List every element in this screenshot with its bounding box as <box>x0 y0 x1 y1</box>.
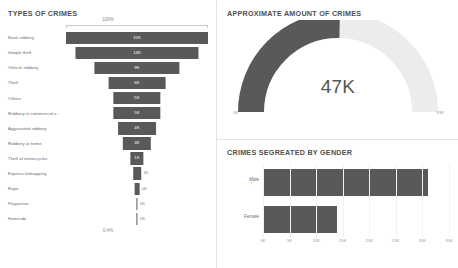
gender-gridline <box>369 164 370 238</box>
gender-gridline <box>290 164 291 238</box>
gender-axis-tick: 30K <box>419 238 426 243</box>
gender-row-label: Male <box>227 177 259 182</box>
gauge-value-text: 47K <box>231 76 445 98</box>
gender-axis-tick: 0K <box>260 238 265 243</box>
funnel-row: Simple theft13K <box>0 46 216 61</box>
gender-gridline <box>422 164 423 238</box>
funnel-row: Theft6K <box>0 76 216 91</box>
gender-axis-tick: 35K <box>445 238 452 243</box>
funnel-bar-track: 15K <box>66 32 208 44</box>
funnel-row-label: Robbery in commercial a... <box>8 111 60 116</box>
crimes-by-gender-panel: CRIMES SEGREATED BY GENDER MaleFemale 0K… <box>216 139 458 268</box>
funnel-axis-bracket <box>66 25 208 28</box>
funnel-bar-value: 0K <box>142 183 147 195</box>
approximate-amount-panel: APPROXIMATE AMOUNT OF CRIMES 47K 0K 93K <box>216 0 458 139</box>
gender-bar-track <box>263 164 449 201</box>
gender-row-label: Female <box>227 214 259 219</box>
funnel-bar-track: 1K <box>66 167 208 179</box>
gender-axis-tick: 10K <box>312 238 319 243</box>
gender-bar <box>263 169 428 196</box>
gender-axis-tick: 20K <box>366 238 373 243</box>
gender-gridline <box>263 164 264 238</box>
gender-axis-stray-mark: 7 <box>250 181 252 186</box>
gender-axis-tick: 15K <box>339 238 346 243</box>
gender-row: Female <box>227 201 451 238</box>
funnel-bar-value: 9K <box>134 62 139 74</box>
funnel-row: Aggravated robbery4K <box>0 122 216 137</box>
funnel-row-label: Aggravated robbery <box>8 126 47 131</box>
funnel-row: Robbery at home3K <box>0 137 216 152</box>
gauge-min-label: 0K <box>233 110 238 115</box>
funnel-row: Plagiarism0K <box>0 197 216 212</box>
funnel-bar-value: 4K <box>134 122 139 134</box>
gauge-arc-svg <box>231 20 445 120</box>
funnel-bar-track: 3K <box>66 137 208 149</box>
gender-chart-title: CRIMES SEGREATED BY GENDER <box>227 148 352 157</box>
funnel-bar-track: 9K <box>66 62 208 74</box>
funnel-row: Others5K <box>0 91 216 106</box>
funnel-bar-track: 4K <box>66 122 208 134</box>
funnel-row: Homicide0K <box>0 212 216 227</box>
funnel-row-label: Express kidnapping <box>8 171 46 176</box>
funnel-row: Vehicle robbery9K <box>0 61 216 76</box>
gender-gridline <box>316 164 317 238</box>
funnel-bar <box>133 167 141 179</box>
types-of-crimes-panel: TYPES OF CRIMES 100% Bank robbery15KSimp… <box>0 0 216 268</box>
funnel-row: Theft of motorcycles1K <box>0 152 216 167</box>
funnel-rows: Bank robbery15KSimple theft13KVehicle ro… <box>0 31 216 227</box>
funnel-bar-value: 1K <box>134 152 139 164</box>
funnel-row-label: Theft of motorcycles <box>8 156 48 161</box>
gender-axis-tick: 5K <box>287 238 292 243</box>
funnel-top-percent-label: 100% <box>0 17 216 22</box>
funnel-bar-track: 0K <box>66 198 208 210</box>
funnel-row-label: Rape <box>8 186 19 191</box>
funnel-bar <box>135 183 140 195</box>
funnel-bar-track: 5K <box>66 92 208 104</box>
gauge-chart-title: APPROXIMATE AMOUNT OF CRIMES <box>227 9 361 18</box>
gender-axis-tick: 25K <box>392 238 399 243</box>
funnel-bar-value: 13K <box>133 47 141 59</box>
funnel-bar-value: 3K <box>134 137 139 149</box>
funnel-row-label: Robbery at home <box>8 141 42 146</box>
gender-row: Male <box>227 164 451 201</box>
funnel-row: Rape0K <box>0 182 216 197</box>
gender-gridline <box>343 164 344 238</box>
funnel-bar-track: 1K <box>66 152 208 164</box>
funnel-bar-track: 6K <box>66 77 208 89</box>
funnel-bar-value: 0K <box>140 213 145 225</box>
funnel-row-label: Simple theft <box>8 50 31 55</box>
funnel-bar-value: 5K <box>134 92 139 104</box>
funnel-bar-value: 6K <box>134 77 139 89</box>
gender-gridline <box>396 164 397 238</box>
funnel-row-label: Homicide <box>8 216 26 221</box>
funnel-row-label: Vehicle robbery <box>8 65 38 70</box>
funnel-row-label: Theft <box>8 80 18 85</box>
funnel-bar-track: 0K <box>66 183 208 195</box>
gender-bars: MaleFemale <box>227 164 451 238</box>
gender-bar-track <box>263 201 449 238</box>
gauge-chart: 47K 0K 93K <box>231 20 445 132</box>
funnel-bar-value: 15K <box>133 32 141 44</box>
funnel-row: Express kidnapping1K <box>0 167 216 182</box>
funnel-row-label: Plagiarism <box>8 201 29 206</box>
gender-gridline <box>449 164 450 238</box>
funnel-row-label: Others <box>8 96 21 101</box>
funnel-row: Robbery in commercial a...5K <box>0 106 216 121</box>
funnel-bar-value: 5K <box>134 107 139 119</box>
gender-x-axis: 0K5K10K15K20K25K30K35K <box>263 238 449 254</box>
crime-dashboard: TYPES OF CRIMES 100% Bank robbery15KSimp… <box>0 0 458 268</box>
funnel-row: Bank robbery15K <box>0 31 216 46</box>
funnel-bar-track: 13K <box>66 47 208 59</box>
gender-bar <box>263 206 337 233</box>
funnel-bar-track: 0K <box>66 213 208 225</box>
funnel-bottom-percent-label: 0.4% <box>0 228 216 233</box>
gauge-max-label: 93K <box>437 110 444 115</box>
funnel-bar <box>136 198 137 210</box>
funnel-row-label: Bank robbery <box>8 35 34 40</box>
funnel-bar-track: 5K <box>66 107 208 119</box>
funnel-bar <box>136 213 137 225</box>
funnel-bar-value: 0K <box>140 198 145 210</box>
funnel-bar-value: 1K <box>143 167 148 179</box>
